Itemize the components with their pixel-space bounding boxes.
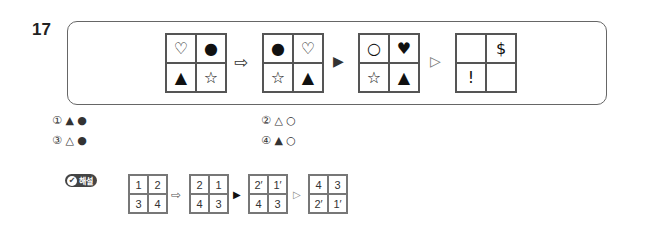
grid-cell: 3 <box>268 194 287 213</box>
option-number: ③ <box>52 134 62 147</box>
grid-cell <box>486 63 516 92</box>
option-text: ▲ ● <box>65 114 87 127</box>
grid-cell: 1′ <box>328 194 347 213</box>
grid-cell: ♡ <box>166 34 196 63</box>
solution-grid-4: 4 3 2′ 1′ <box>308 174 348 214</box>
hollow-triangle-op-icon: ▷ <box>430 53 441 69</box>
option-number: ① <box>52 114 62 127</box>
hollow-arrow-icon: ⇨ <box>234 52 248 72</box>
check-icon: ✔ <box>67 176 77 186</box>
puzzle-grid-3: ○ ♥ ☆ ▲ <box>358 33 420 93</box>
grid-cell: ♡ <box>293 34 323 63</box>
grid-cell: ☆ <box>359 63 389 92</box>
solution-grid-1: 1 2 3 4 <box>128 174 168 214</box>
hollow-triangle-op-icon: ▷ <box>293 189 301 200</box>
puzzle-grid-4: $ ! <box>455 33 517 93</box>
grid-cell: 2′ <box>249 175 268 194</box>
grid-cell: 3 <box>209 194 228 213</box>
option-4[interactable]: ④ ▲ ○ <box>261 134 296 147</box>
grid-cell: ● <box>263 34 293 63</box>
grid-cell: 2 <box>148 175 167 194</box>
option-number: ② <box>261 114 271 127</box>
grid-cell: 1 <box>209 175 228 194</box>
grid-cell <box>456 34 486 63</box>
option-text: △ ● <box>65 134 87 147</box>
grid-cell: 1′ <box>268 175 287 194</box>
option-1[interactable]: ① ▲ ● <box>52 114 87 127</box>
filled-triangle-op-icon: ▶ <box>333 53 344 69</box>
grid-cell: 4 <box>309 175 328 194</box>
grid-cell: ▲ <box>166 63 196 92</box>
grid-cell: 3 <box>328 175 347 194</box>
grid-cell: ○ <box>359 34 389 63</box>
grid-cell: 4 <box>148 194 167 213</box>
puzzle-grid-2: ● ♡ ☆ ▲ <box>262 33 324 93</box>
filled-triangle-op-icon: ▶ <box>233 189 241 200</box>
grid-cell: 4 <box>249 194 268 213</box>
puzzle-grid-1: ♡ ● ▲ ☆ <box>165 33 227 93</box>
grid-cell: 4 <box>190 194 209 213</box>
option-text: △ ○ <box>274 114 296 127</box>
grid-cell: ● <box>196 34 226 63</box>
grid-cell: ▲ <box>389 63 419 92</box>
solution-badge: ✔ 해설 <box>65 174 97 187</box>
grid-cell: ☆ <box>196 63 226 92</box>
solution-grid-3: 2′ 1′ 4 3 <box>248 174 288 214</box>
hollow-arrow-icon: ⇨ <box>171 188 181 202</box>
solution-grid-2: 2 1 4 3 <box>189 174 229 214</box>
question-number: 17 <box>32 20 51 40</box>
solution-label: 해설 <box>79 175 93 186</box>
grid-cell: 2′ <box>309 194 328 213</box>
grid-cell: $ <box>486 34 516 63</box>
option-text: ▲ ○ <box>274 134 296 147</box>
grid-cell: ☆ <box>263 63 293 92</box>
option-number: ④ <box>261 134 271 147</box>
grid-cell: ♥ <box>389 34 419 63</box>
grid-cell: ! <box>456 63 486 92</box>
option-2[interactable]: ② △ ○ <box>261 114 296 127</box>
option-3[interactable]: ③ △ ● <box>52 134 87 147</box>
grid-cell: 3 <box>129 194 148 213</box>
grid-cell: ▲ <box>293 63 323 92</box>
grid-cell: 1 <box>129 175 148 194</box>
grid-cell: 2 <box>190 175 209 194</box>
